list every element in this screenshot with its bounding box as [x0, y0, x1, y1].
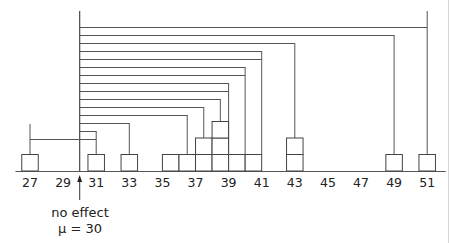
arrow-head-icon — [77, 175, 82, 182]
data-box — [212, 155, 229, 172]
data-box — [179, 155, 196, 172]
data-box — [212, 122, 229, 139]
x-tick-label: 39 — [221, 175, 237, 190]
x-tick-label: 41 — [254, 175, 270, 190]
data-box — [229, 155, 246, 172]
data-box — [162, 155, 179, 172]
data-box — [22, 155, 39, 172]
x-tick-label: 35 — [154, 175, 170, 190]
x-tick-label: 51 — [419, 175, 435, 190]
x-tick-label: 33 — [121, 175, 137, 190]
x-tick-label: 43 — [287, 175, 303, 190]
data-box — [287, 155, 304, 172]
x-tick-label: 29 — [55, 175, 71, 190]
x-tick-label: 31 — [88, 175, 104, 190]
x-tick-label: 45 — [320, 175, 336, 190]
x-tick-label: 49 — [386, 175, 402, 190]
data-box — [245, 155, 261, 172]
data-box — [212, 138, 229, 155]
data-box — [386, 155, 403, 172]
data-box — [196, 138, 213, 155]
x-tick-label: 37 — [188, 175, 204, 190]
data-box — [88, 155, 105, 172]
x-tick-label: 47 — [353, 175, 369, 190]
reference-label-line2: μ = 30 — [58, 221, 102, 237]
reference-label-line1: no effect — [51, 205, 109, 221]
data-box — [287, 138, 304, 155]
right-border — [448, 0, 449, 243]
diagram-canvas: 27293133353739414345474951 no effect μ =… — [0, 0, 452, 243]
data-box — [196, 155, 213, 172]
data-box — [121, 155, 138, 172]
x-tick-label: 27 — [22, 175, 38, 190]
data-box — [419, 155, 436, 172]
